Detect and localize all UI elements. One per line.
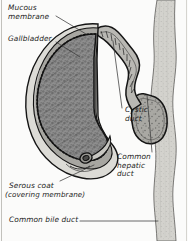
label-serous-coat-sub: (covering membrane): [5, 191, 85, 200]
label-common-bile-duct: Common bile duct: [9, 216, 78, 225]
label-gallbladder: Gallbladder: [8, 35, 52, 44]
label-cystic-duct: Cystic duct: [125, 106, 148, 123]
label-common-hepatic-duct: Common hepatic duct: [117, 153, 151, 179]
label-mucous-membrane: Mucous membrane: [8, 4, 49, 21]
